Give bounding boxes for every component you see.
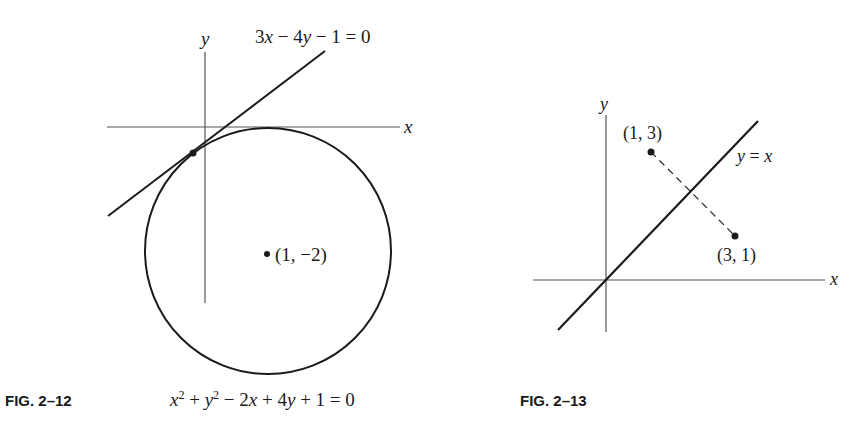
- line-y-equals-x-label: y = x: [735, 146, 772, 166]
- point-1-3: [648, 149, 655, 156]
- dashed-segment: [651, 152, 735, 236]
- tangent-line-equation: 3x − 4y − 1 = 0: [255, 26, 371, 47]
- fig13-y-label: y: [598, 94, 608, 114]
- point-1-3-label: (1, 3): [623, 123, 662, 144]
- fig12-x-label: x: [403, 116, 413, 137]
- point-3-1: [732, 233, 739, 240]
- fig-2-12: x y (1, −2) 3x − 4y − 1 = 0 x2 + y2 − 2x…: [5, 26, 413, 410]
- fig-2-13: x y y = x (1, 3) (3, 1) FIG. 2–13: [520, 94, 838, 409]
- fig12-caption: FIG. 2–12: [5, 392, 72, 409]
- center-point: [264, 251, 270, 257]
- figure-canvas: x y (1, −2) 3x − 4y − 1 = 0 x2 + y2 − 2x…: [0, 0, 867, 425]
- circle-equation: x2 + y2 − 2x + 4y + 1 = 0: [169, 388, 355, 410]
- line-y-equals-x: [558, 121, 758, 330]
- circle: [145, 128, 391, 374]
- fig13-x-label: x: [829, 269, 838, 289]
- fig12-y-label: y: [199, 28, 210, 49]
- fig13-caption: FIG. 2–13: [520, 392, 587, 409]
- tangent-line: [108, 51, 325, 216]
- center-label: (1, −2): [275, 244, 327, 266]
- point-3-1-label: (3, 1): [717, 245, 756, 266]
- tangent-point: [190, 150, 197, 157]
